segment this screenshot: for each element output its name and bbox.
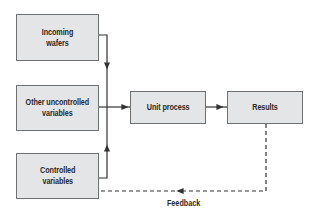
node-label: Incoming wafers bbox=[42, 27, 73, 49]
edge-incoming bbox=[99, 35, 107, 66]
node-incoming-wafers: Incoming wafers bbox=[16, 14, 99, 61]
node-label: Results bbox=[252, 102, 278, 113]
node-label: Unit process bbox=[147, 102, 190, 113]
edge-controlled bbox=[99, 148, 107, 178]
node-controlled-variables: Controlled variables bbox=[16, 153, 99, 199]
edge-feedback bbox=[180, 124, 266, 191]
node-label: Other uncontrolled variables bbox=[26, 97, 89, 119]
node-results: Results bbox=[227, 91, 303, 124]
feedback-label: Feedback bbox=[167, 198, 200, 208]
node-other-uncontrolled-variables: Other uncontrolled variables bbox=[16, 85, 99, 131]
node-unit-process: Unit process bbox=[130, 91, 206, 124]
node-label: Controlled variables bbox=[40, 165, 75, 187]
